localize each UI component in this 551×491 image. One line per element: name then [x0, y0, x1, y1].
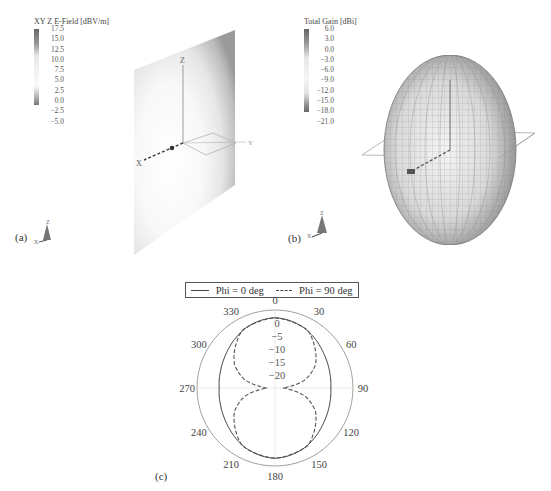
axis-triad-b: Z X	[307, 207, 337, 239]
angle-label: 30	[314, 306, 325, 317]
cb-tick: −2.5	[40, 106, 64, 116]
colorbar-ticks-b: 6.0 3.0 0.0 −3.0 −6.0 −9.0 −12.0 −15.0 −…	[310, 24, 334, 127]
cb-tick: 15.0	[40, 34, 64, 44]
angle-label: 90	[358, 383, 369, 394]
cb-tick: 3.0	[310, 34, 334, 44]
axis-label-z: Z	[180, 56, 185, 65]
axis-label-x: X	[136, 159, 142, 168]
angle-label: 210	[223, 459, 239, 470]
cb-tick: 0.0	[40, 96, 64, 106]
cb-tick: 17.5	[40, 24, 64, 34]
angle-label: 150	[311, 459, 327, 470]
angle-label: 180	[267, 471, 283, 482]
radial-label: −20	[269, 370, 285, 381]
panel-label-b: (b)	[288, 232, 301, 244]
cb-tick: −18.0	[310, 106, 334, 116]
axis-triad-a: Z X	[33, 218, 57, 246]
angle-label: 330	[223, 306, 239, 317]
legend-dashed-swatch	[276, 290, 292, 291]
radiation-pattern-3d	[360, 55, 551, 245]
cb-tick: 2.5	[40, 86, 64, 96]
radial-label: −15	[269, 357, 285, 368]
cb-tick: 10.0	[40, 55, 64, 65]
angle-label: 270	[179, 383, 195, 394]
efield-plane: Z Y X	[130, 25, 280, 260]
colorbar-b	[304, 29, 309, 112]
angle-label: 240	[191, 427, 207, 438]
svg-text:X: X	[307, 233, 312, 239]
cb-tick: −9.0	[310, 75, 334, 85]
angle-label: 300	[191, 339, 207, 350]
angle-label: 120	[343, 427, 359, 438]
legend-solid-swatch	[191, 290, 209, 291]
svg-text:X: X	[34, 239, 39, 245]
radial-label: −10	[269, 344, 285, 355]
cb-tick: −12.0	[310, 86, 334, 96]
colorbar-a	[34, 29, 39, 105]
cb-tick: 12.5	[40, 45, 64, 55]
svg-text:Z: Z	[320, 210, 324, 216]
cb-tick: −21.0	[310, 117, 334, 127]
cb-tick: −3.0	[310, 55, 334, 65]
svg-text:Z: Z	[46, 219, 50, 225]
cb-tick: 5.0	[40, 75, 64, 85]
cb-tick: 7.5	[40, 65, 64, 75]
cb-tick: −5.0	[40, 117, 64, 127]
radial-label: 0	[274, 318, 279, 329]
cb-tick: 0.0	[310, 45, 334, 55]
cb-tick: −15.0	[310, 96, 334, 106]
cb-tick: −6.0	[310, 65, 334, 75]
colorbar-ticks-a: 17.5 15.0 12.5 10.0 7.5 5.0 2.5 0.0 −2.5…	[40, 24, 64, 127]
radial-label: −5	[271, 331, 282, 342]
angle-label: 0	[272, 295, 277, 306]
axis-label-y: Y	[248, 139, 253, 147]
polar-plot: 03060901201501802102402703003300−5−10−15…	[160, 295, 400, 491]
panel-label-a: (a)	[15, 231, 27, 243]
angle-label: 60	[346, 339, 357, 350]
cb-tick: 6.0	[310, 24, 334, 34]
panel-label-c: (c)	[155, 470, 167, 482]
